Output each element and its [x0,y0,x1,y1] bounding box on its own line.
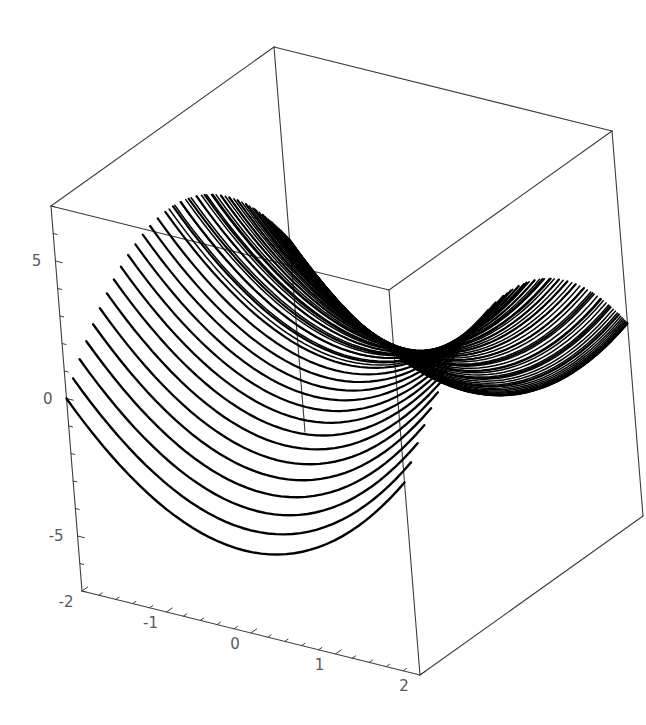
x-tick-label-4: 2 [399,677,409,695]
x-tick-label-0: -2 [59,593,74,611]
surface-curve [73,378,411,534]
z-tick-label-0: 5 [32,252,42,270]
z-tick-label-2: -5 [49,527,64,545]
plot-root: -2-101250-5 [0,0,646,725]
x-tick-label-3: 1 [315,656,325,674]
surface-curve [67,399,405,555]
surface-curve [225,196,563,352]
surface-curves [67,195,628,555]
z-tick-label-1: 0 [43,390,53,408]
surface-plot-svg: -2-101250-5 [0,0,646,725]
x-tick-label-2: 0 [230,635,240,653]
axis-ticks [51,206,426,675]
x-tick-label-1: -1 [143,614,158,632]
